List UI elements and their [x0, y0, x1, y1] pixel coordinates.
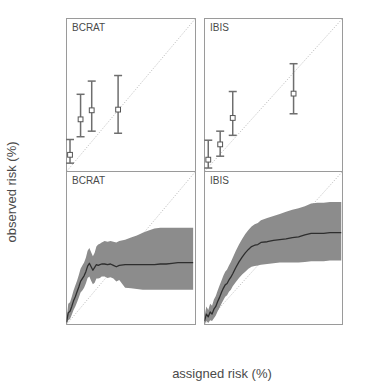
panel-top-left: BCRAT: [66, 19, 195, 172]
confidence-band-bottom-right: [205, 202, 342, 324]
panel-label-top-right: IBIS: [210, 22, 229, 33]
panel-frame-top-left: [67, 19, 196, 172]
errorbars-top-right: [204, 64, 297, 168]
calibration-figure: observed risk (%) assigned risk (%) BCRA…: [0, 0, 379, 385]
diagonal-reference-top-right: [205, 19, 343, 172]
panel-label-top-left: BCRAT: [72, 22, 105, 33]
panel-label-bottom-left: BCRAT: [72, 175, 105, 186]
data-point-marker: [89, 108, 94, 113]
data-point-marker: [230, 116, 235, 121]
confidence-band-bottom-left: [67, 228, 194, 325]
data-point-marker: [206, 157, 211, 162]
y-axis-title: observed risk (%): [4, 141, 19, 242]
errorbars-top-left: [66, 76, 122, 164]
data-point-marker: [116, 107, 121, 112]
x-axis-title: assigned risk (%): [172, 366, 272, 381]
data-point-marker: [78, 117, 83, 122]
panel-bottom-left: BCRAT: [67, 172, 196, 325]
panel-label-bottom-right: IBIS: [210, 175, 229, 186]
diagonal-reference-top-left: [67, 19, 196, 172]
panel-top-right: IBIS: [204, 19, 342, 172]
figure-canvas: observed risk (%) assigned risk (%) BCRA…: [0, 0, 379, 385]
panel-bottom-right: IBIS: [205, 172, 343, 325]
data-point-marker: [218, 142, 223, 147]
data-point-marker: [291, 91, 296, 96]
data-point-marker: [68, 152, 73, 157]
